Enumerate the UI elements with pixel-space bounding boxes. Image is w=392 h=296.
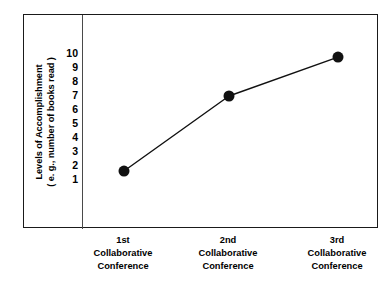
y-tick-label: 10 [54, 48, 78, 59]
y-tick-label: 4 [54, 132, 78, 143]
x-category-label-2: 2nd Collaborative Conference [173, 234, 283, 274]
data-point-marker [333, 52, 344, 63]
y-tick-label: 1 [54, 174, 78, 185]
y-axis-title-line-1: Levels of Accomplishment [34, 64, 46, 179]
data-point-marker [119, 166, 130, 177]
x-category-line: 3rd [282, 234, 392, 247]
x-category-line: Collaborative [282, 247, 392, 260]
x-axis-labels: 1st Collaborative Conference 2nd Collabo… [23, 234, 378, 292]
x-category-line: Conference [68, 260, 178, 273]
x-category-line: Collaborative [173, 247, 283, 260]
line-chart-svg [83, 15, 378, 229]
y-tick-label: 7 [54, 90, 78, 101]
y-tick-label: 6 [54, 104, 78, 115]
y-axis-tick-labels: 10 9 8 7 6 5 4 3 2 1 [54, 15, 78, 229]
x-category-label-1: 1st Collaborative Conference [68, 234, 178, 274]
y-tick-label: 9 [54, 62, 78, 73]
y-tick-label: 8 [54, 76, 78, 87]
data-point-marker [224, 90, 235, 101]
x-category-label-3: 3rd Collaborative Conference [282, 234, 392, 274]
x-category-line: 1st [68, 234, 178, 247]
x-category-line: Conference [173, 260, 283, 273]
chart-frame: Levels of Accomplishment ( e. g., number… [23, 14, 378, 228]
x-category-line: Collaborative [68, 247, 178, 260]
x-category-line: Conference [282, 260, 392, 273]
y-tick-label: 2 [54, 160, 78, 171]
y-tick-label: 5 [54, 118, 78, 129]
x-category-line: 2nd [173, 234, 283, 247]
series-line [124, 57, 338, 171]
y-tick-label: 3 [54, 146, 78, 157]
series-markers [119, 52, 344, 177]
plot-area [83, 15, 378, 229]
chart-figure: Levels of Accomplishment ( e. g., number… [0, 0, 392, 296]
